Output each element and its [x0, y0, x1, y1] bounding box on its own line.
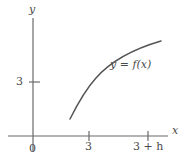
x-tick-label-3-plus-h: 3 + h [133, 141, 163, 152]
function-graph-figure: y x 0 3 3 3 + h y = f(x) [0, 0, 187, 164]
x-axis-label: x [172, 125, 178, 136]
x-tick-label-3: 3 [85, 141, 92, 152]
y-axis-label: y [29, 4, 35, 15]
function-curve [70, 41, 161, 119]
y-tick-label-3: 3 [16, 76, 23, 87]
origin-label: 0 [29, 143, 36, 154]
curve-label: y = f(x) [110, 59, 151, 70]
